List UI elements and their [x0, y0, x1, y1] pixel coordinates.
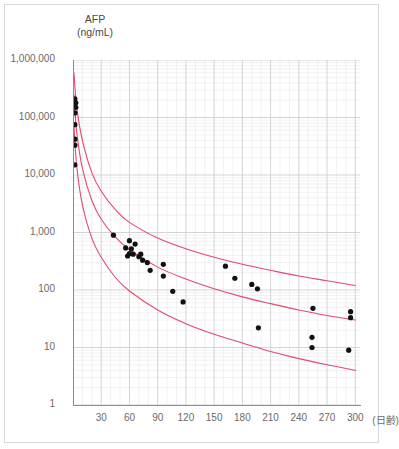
data-point — [309, 335, 314, 340]
data-point — [125, 253, 130, 258]
data-point — [161, 273, 166, 278]
data-point — [73, 100, 78, 105]
x-axis-tick-label: 210 — [256, 412, 286, 423]
data-point — [145, 260, 150, 265]
data-point — [181, 299, 186, 304]
data-point — [223, 264, 228, 269]
chart-frame: AFP(ng/mL) 1,000,000100,00010,0001,00010… — [4, 4, 379, 443]
chart-svg — [73, 60, 360, 405]
data-point — [255, 286, 260, 291]
data-point — [129, 246, 134, 251]
plot-area — [73, 60, 360, 405]
y-axis-tick-label: 10 — [44, 341, 55, 352]
y-axis-tick-label: 1,000,000 — [11, 53, 56, 64]
data-point — [249, 282, 254, 287]
x-axis-tick-label: 120 — [171, 412, 201, 423]
data-point — [348, 309, 353, 314]
x-axis-tick-label: 240 — [284, 412, 314, 423]
x-axis-tick-label: 180 — [227, 412, 257, 423]
x-axis-tick-label: 270 — [312, 412, 342, 423]
data-point — [309, 345, 314, 350]
x-axis-tick-label: 90 — [143, 412, 173, 423]
y-axis-tick-label: 100,000 — [19, 111, 55, 122]
upper-reference-curve — [74, 73, 355, 286]
y-axis-tick-label: 10,000 — [24, 168, 55, 179]
x-axis-tick-label: 150 — [199, 412, 229, 423]
x-axis-unit-label: (日齢) — [372, 412, 399, 427]
data-point — [256, 325, 261, 330]
lower-reference-curve — [74, 126, 355, 370]
data-point — [170, 289, 175, 294]
median-reference-curve — [74, 95, 355, 320]
chart-title-line2: (ng/mL) — [77, 26, 113, 38]
y-axis-tick-label: 1,000 — [30, 226, 55, 237]
data-point — [140, 258, 145, 263]
data-point — [148, 268, 153, 273]
data-point — [131, 252, 136, 257]
data-point — [232, 276, 237, 281]
data-point — [161, 262, 166, 267]
y-axis-tick-label: 1 — [49, 398, 55, 409]
chart-title: AFP(ng/mL) — [35, 13, 155, 39]
x-axis-line — [73, 405, 361, 406]
data-point — [346, 348, 351, 353]
data-point — [310, 306, 315, 311]
data-point — [127, 238, 132, 243]
data-point — [133, 241, 138, 246]
x-axis-tick-label: 300 — [340, 412, 370, 423]
x-axis-tick-label: 30 — [86, 412, 116, 423]
data-point — [348, 315, 353, 320]
y-axis-tick-label: 100 — [38, 283, 55, 294]
data-point — [123, 245, 128, 250]
data-point — [111, 233, 116, 238]
y-axis-line — [73, 60, 74, 406]
chart-title-line1: AFP — [85, 13, 105, 25]
data-point — [73, 105, 78, 110]
x-axis-tick-label: 60 — [114, 412, 144, 423]
